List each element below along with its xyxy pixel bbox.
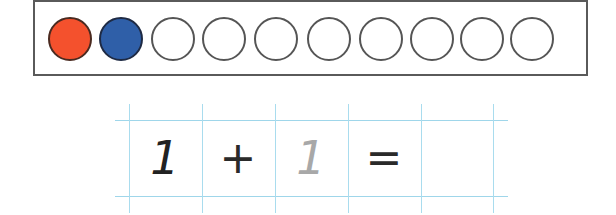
equation-grid: 1 + 1 = bbox=[0, 0, 616, 215]
grid-line-bottom bbox=[115, 196, 508, 197]
answer-box[interactable] bbox=[421, 128, 493, 188]
addend-two-trace: 1 bbox=[275, 128, 347, 188]
equals-sign: = bbox=[348, 128, 420, 188]
grid-line-vertical bbox=[493, 104, 494, 213]
grid-line-top bbox=[115, 120, 508, 121]
plus-sign: + bbox=[202, 128, 274, 188]
addend-one: 1 bbox=[129, 128, 201, 188]
